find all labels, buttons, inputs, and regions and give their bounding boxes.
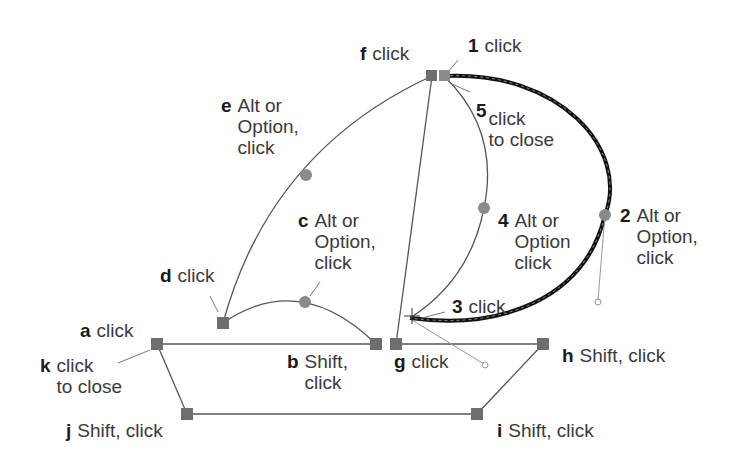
label-j: jShift, click (66, 420, 163, 441)
label-i: iShift, click (497, 420, 594, 441)
mast-line (396, 76, 432, 344)
label-2: 2Alt or Option, click (620, 205, 698, 268)
label-4: 4Alt or Option click (498, 210, 571, 273)
anchor-g-icon (390, 338, 402, 350)
curve-point-e-icon (300, 169, 312, 181)
anchor-a-icon (151, 338, 163, 350)
curve-point-2-icon (599, 209, 611, 221)
label-d: dclick (160, 265, 215, 286)
label-g: gclick (394, 351, 449, 372)
anchor-j-icon (181, 408, 193, 420)
label-f: fclick (360, 43, 409, 64)
anchor-i-icon (471, 408, 483, 420)
label-b: bShift, click (287, 351, 348, 393)
label-a: aclick (80, 320, 134, 341)
anchor-b-icon (370, 338, 382, 350)
label-c: cAlt or Option, click (298, 210, 376, 273)
label-h: hShift, click (562, 345, 665, 366)
hull-path (157, 344, 543, 414)
label-1: 1click (468, 35, 522, 56)
curve-point-4-icon (478, 202, 490, 214)
curve-point-c-icon (299, 296, 311, 308)
anchor-1-icon (439, 70, 450, 81)
label-k: kclick to close (40, 355, 122, 397)
anchor-d-icon (217, 317, 229, 329)
label-3: 3click (452, 296, 506, 317)
anchor-f-icon (426, 70, 437, 81)
label-e: eAlt or Option, click (221, 95, 299, 158)
label-5: 5click to close (476, 100, 554, 150)
anchor-h-icon (537, 338, 549, 350)
